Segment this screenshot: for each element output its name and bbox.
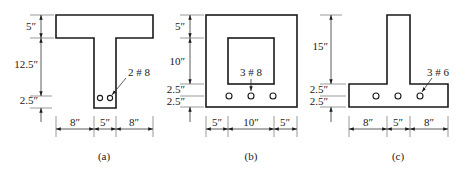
dimension-label: 8″ <box>70 116 80 128</box>
dimension-label: 10″ <box>243 116 259 128</box>
rebar-label: 2 # 8 <box>128 66 151 78</box>
rebar-label: 3 # 6 <box>427 66 450 78</box>
rebar-label: 3 # 8 <box>240 66 263 78</box>
rebar-circle <box>417 93 423 99</box>
figure-c-inverted-t-beam: 3 # 6 15″ 2.5″ 2.5″ 8″ 5″ 8″ (c) <box>310 15 450 163</box>
rebar-circle <box>373 93 379 99</box>
dimension-label: 15″ <box>312 40 328 52</box>
dimension-label: 2.5″ <box>167 83 185 95</box>
figure-caption: (c) <box>392 150 405 163</box>
rebar-circle <box>226 93 232 99</box>
dimension-label: 8″ <box>363 116 373 128</box>
dimension-label: 10″ <box>169 55 185 67</box>
dimension-label: 5″ <box>100 116 110 128</box>
dimension-label: 5″ <box>393 116 403 128</box>
dimension-label: 2.5″ <box>20 94 38 106</box>
dimension-label: 2.5″ <box>310 83 328 95</box>
dimension-label: 8″ <box>129 116 139 128</box>
dimension-label: 5″ <box>280 116 290 128</box>
figure-b-box-beam: 3 # 8 5″ 10″ 2.5″ 2.5″ 5″ 10″ 5″ (b) <box>167 15 297 163</box>
dimension-label: 2.5″ <box>310 95 328 107</box>
rebar-circle <box>395 93 401 99</box>
figure-a-t-beam: 2 # 8 5″ 12.5″ 2.5″ 8″ 5″ 8″ (a) <box>14 15 153 163</box>
dimension-label: 5″ <box>26 20 36 32</box>
t-beam-section <box>56 15 153 108</box>
rebar-circle <box>107 95 112 100</box>
dimension-label: 5″ <box>175 20 185 32</box>
rebar-circle <box>248 93 254 99</box>
figure-caption: (b) <box>245 150 258 163</box>
dimension-label: 8″ <box>424 116 434 128</box>
dimension-label: 5″ <box>212 116 222 128</box>
rebar-circle <box>270 93 276 99</box>
beam-cross-sections-diagram: 2 # 8 5″ 12.5″ 2.5″ 8″ 5″ 8″ (a) 3 # <box>0 0 465 170</box>
dimension-label: 2.5″ <box>167 95 185 107</box>
dimension-label: 12.5″ <box>14 58 38 70</box>
figure-caption: (a) <box>98 150 111 163</box>
rebar-circle <box>97 95 102 100</box>
